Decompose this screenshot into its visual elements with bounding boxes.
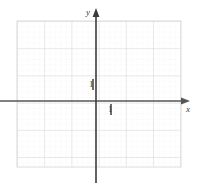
y-axis-tick-label-1: 1 [89, 80, 94, 89]
y-axis-label: y [86, 8, 90, 17]
x-axis-label: x [186, 105, 190, 114]
x-axis-tick-label-1: 1 [108, 105, 113, 114]
y-axis-arrowhead [93, 8, 100, 17]
axes-layer [0, 0, 197, 183]
coordinate-plane-figure: y x 1 1 [0, 0, 197, 183]
